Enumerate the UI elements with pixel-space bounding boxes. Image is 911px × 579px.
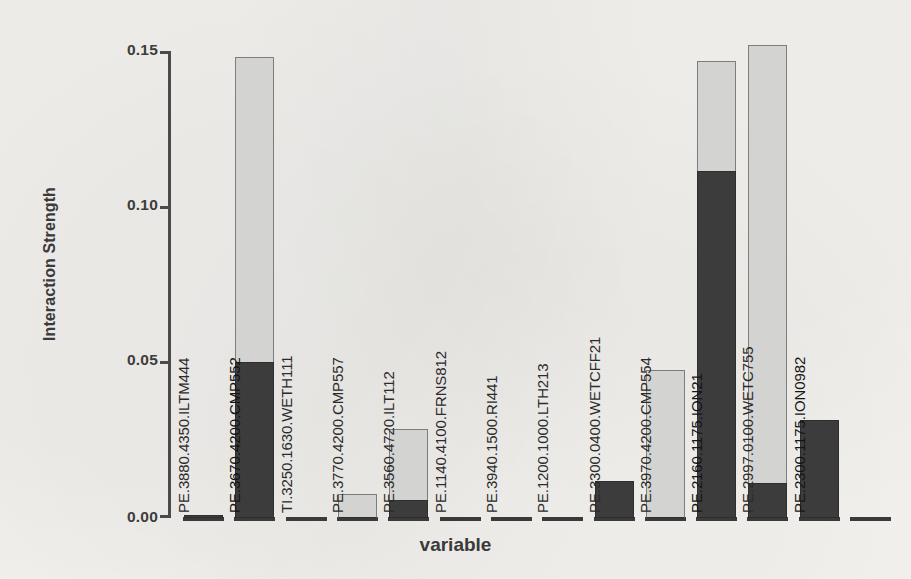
bar-segment-lower	[697, 171, 736, 518]
bar-segment-upper	[697, 61, 736, 171]
bar-category-label: PE.1140.4100.FRNS812	[432, 351, 449, 513]
bar[interactable]	[646, 370, 685, 518]
bar[interactable]	[338, 494, 377, 518]
bar-category-label: TI.3250.1630.WETH111	[278, 355, 295, 513]
bar[interactable]	[184, 515, 223, 518]
bar[interactable]	[389, 429, 428, 518]
bar-segment-lower	[800, 420, 839, 518]
bar-segment-lower	[748, 483, 787, 518]
bar-baseline-tick	[286, 517, 327, 521]
bar-segment-lower	[235, 362, 274, 518]
bar-baseline-tick	[542, 517, 583, 521]
bar-category-label: PE.3770.4200.CMP557	[329, 357, 346, 513]
bar-baseline-tick	[440, 517, 481, 521]
bar[interactable]	[748, 45, 787, 518]
bar[interactable]	[235, 57, 274, 518]
bar-segment-upper	[389, 429, 428, 500]
x-axis-title: variable	[0, 534, 911, 556]
bar-chart: 0.15 0.10 0.05 0.00 Interaction Strength…	[0, 0, 911, 579]
bar-segment-lower	[595, 481, 634, 518]
bar-segment-upper	[646, 370, 685, 518]
bar-segment-upper	[748, 45, 787, 483]
bar[interactable]	[697, 61, 736, 518]
bar-category-label: PE.3880.4350.ILTM444	[175, 358, 192, 513]
bars-layer: PE.3880.4350.ILTM444PE.3670.4200.CMP552T…	[0, 0, 911, 579]
bar-segment-lower	[184, 515, 223, 518]
bar-category-label: PE.1200.1000.LTH213	[534, 363, 551, 513]
bar[interactable]	[595, 481, 634, 518]
bar-baseline-tick	[491, 517, 532, 521]
bar-category-label: PE.3940.1500.RI441	[483, 376, 500, 513]
bar[interactable]	[800, 420, 839, 518]
bar-segment-upper	[338, 494, 377, 518]
bar-baseline-tick	[850, 517, 891, 521]
bar-segment-upper	[235, 57, 274, 362]
bar-segment-lower	[389, 500, 428, 518]
